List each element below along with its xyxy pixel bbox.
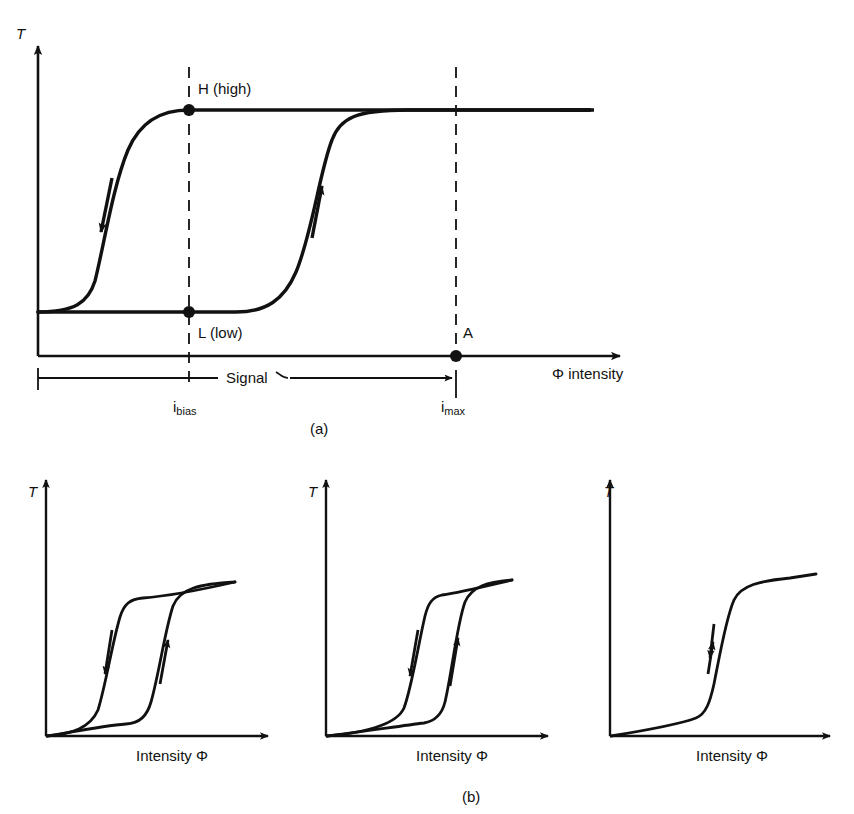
panel-a-caption: (a)	[310, 421, 328, 436]
panel-b2-curve-switch-down	[327, 580, 512, 736]
panel-b2-curve-switch-up	[327, 580, 512, 736]
label-high-state: H (high)	[198, 81, 251, 96]
tick-label-i-max: imax	[441, 399, 465, 414]
panel-b1-y-axis-label: T	[28, 484, 37, 499]
marker-high-state-dot	[183, 104, 195, 116]
panel-a-x-axis-label: Φ intensity	[552, 366, 623, 381]
panel-b1-graphic	[10, 462, 310, 792]
marker-low-state-dot	[183, 306, 195, 318]
panel-b3-graphic	[568, 462, 854, 792]
signal-label-leader	[276, 372, 288, 378]
label-operating-point-a: A	[463, 325, 473, 340]
panel-b3-y-axis-label: T	[604, 484, 613, 499]
figure-optical-bistability: T H (high) L (low) A Signal ibias imax Φ…	[0, 0, 854, 814]
panel-a-y-axis-label: T	[16, 26, 25, 41]
tick-label-i-bias: ibias	[173, 399, 197, 414]
panel-b-caption: (b)	[462, 789, 480, 804]
panel-b3-curve-s	[611, 574, 816, 736]
panel-b1-curve-switch-down	[47, 582, 235, 736]
marker-operating-point-dot	[450, 350, 462, 362]
panel-a-graphic	[0, 0, 854, 450]
label-signal-span: Signal	[222, 370, 272, 385]
panel-b2-y-axis-label: T	[308, 484, 317, 499]
curve-switch-up-branch	[38, 110, 590, 312]
panel-b1-x-axis-label: Intensity Φ	[136, 748, 208, 763]
panel-b1-curve-switch-up	[47, 582, 235, 736]
panel-b2-x-axis-label: Intensity Φ	[416, 748, 488, 763]
panel-b2-graphic	[290, 462, 590, 792]
panel-b3-x-axis-label: Intensity Φ	[696, 748, 768, 763]
label-low-state: L (low)	[198, 325, 242, 340]
